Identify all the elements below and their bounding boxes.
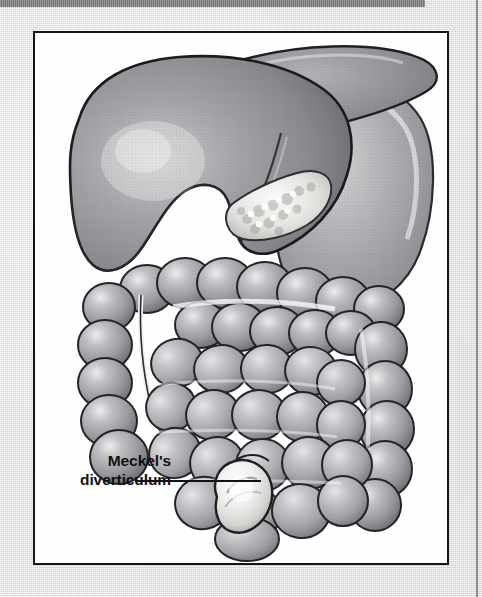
annotation-label-line-2: diverticulum — [46, 470, 171, 489]
scanned-figure-page: Meckel's diverticulum — [0, 0, 482, 597]
figure-frame: Meckel's diverticulum — [33, 31, 449, 565]
top-gray-rule — [0, 0, 425, 7]
annotation-label-line-1: Meckel's — [46, 451, 171, 470]
annotation-label: Meckel's diverticulum — [46, 451, 171, 489]
right-page-edge-rule — [476, 0, 478, 597]
